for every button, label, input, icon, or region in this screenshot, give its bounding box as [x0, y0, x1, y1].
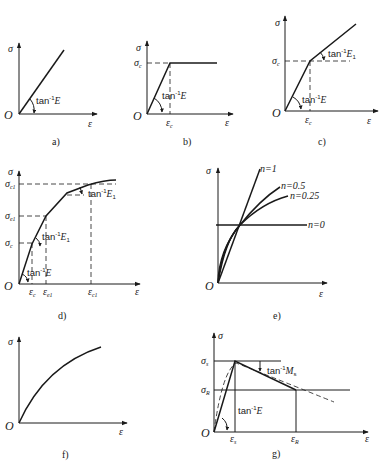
- angle-arc-icon: [320, 52, 324, 60]
- origin-label: O: [272, 106, 281, 120]
- stress-strain-figure: σ ε O tan-1E a) σ σc εc ε O tan-1E b) σ …: [0, 0, 383, 465]
- origin-label: O: [133, 109, 142, 123]
- label-n1: n=1: [260, 163, 277, 174]
- panel-c: σ σc εc ε O tan-1E tan-1E1 c): [272, 16, 378, 148]
- panel-b: σ σc εc ε O tan-1E b): [133, 41, 233, 148]
- annotation-tan-E: tan-1E: [27, 267, 52, 278]
- elastic-plastic-line: [147, 63, 217, 114]
- tick-sigma-e1: σe1: [5, 210, 16, 222]
- curve-n05: [218, 187, 280, 283]
- x-axis-label: ε: [135, 286, 139, 297]
- origin-label: O: [5, 419, 14, 433]
- annotation-tan-E: tan-1E: [36, 95, 61, 106]
- x-axis-label: ε: [365, 433, 369, 444]
- tick-eps-c: εc: [305, 114, 312, 126]
- nonlinear-curve: [19, 347, 101, 423]
- panel-e: σ ε O n=1 n=0.5 n=0.25 n=0 e): [205, 163, 327, 322]
- x-axis-label: ε: [319, 288, 323, 299]
- tick-eps-s: εs: [230, 433, 237, 445]
- annotation-tan-E1: tan-1E1: [42, 231, 70, 243]
- x-axis-label: ε: [367, 115, 371, 126]
- x-axis-label: ε: [225, 117, 229, 128]
- softening-curve: [214, 361, 296, 432]
- panel-g: σ σs σR εs εR ε O tan-1E tan-1Ms g): [201, 330, 369, 460]
- y-axis-label: σ: [206, 165, 212, 176]
- caption-a: a): [52, 136, 60, 148]
- caption-e: e): [273, 310, 281, 322]
- angle-arc-icon: [36, 238, 40, 246]
- annotation-tan-E: tan-1E: [302, 94, 327, 105]
- y-axis-label: σ: [275, 17, 281, 28]
- y-axis-label: σ: [8, 336, 14, 347]
- y-axis-label: σ: [136, 42, 142, 53]
- tick-sigma-c: σc: [5, 237, 13, 249]
- tick-eps-c: εc: [29, 286, 36, 298]
- angle-arc-icon: [222, 418, 227, 430]
- angle-arc-icon: [154, 98, 162, 112]
- caption-g: g): [272, 448, 280, 460]
- angle-arc-icon: [30, 99, 34, 113]
- x-axis-label: ε: [119, 426, 123, 437]
- annotation-tan-Ms: tan-1Ms: [267, 365, 296, 377]
- annotation-tan-E: tan-1E: [238, 405, 263, 416]
- panel-f: σ ε O f): [5, 336, 127, 461]
- caption-c: c): [318, 136, 326, 148]
- tick-sigma-s: σs: [201, 355, 209, 367]
- tick-sigma-c: σc: [272, 55, 280, 67]
- tick-eps-R: εR: [291, 433, 299, 445]
- tick-eps-c1: εc1: [88, 286, 98, 298]
- panel-a: σ ε O tan-1E a): [4, 43, 97, 148]
- tick-sigma-c1: σc1: [5, 178, 16, 190]
- annotation-tan-E1-upper: tan-1E1: [88, 188, 116, 200]
- tick-sigma-c: σc: [134, 57, 142, 69]
- origin-label: O: [201, 426, 210, 440]
- caption-d: d): [58, 310, 66, 322]
- annotation-tan-E1: tan-1E1: [328, 48, 356, 60]
- origin-label: O: [4, 279, 13, 293]
- label-n0: n=0: [308, 219, 325, 230]
- caption-b: b): [183, 136, 191, 148]
- origin-label: O: [205, 279, 214, 293]
- tick-eps-e1: εe1: [43, 286, 53, 298]
- tick-sigma-R: σR: [201, 384, 210, 396]
- caption-f: f): [62, 449, 69, 461]
- tick-eps-c: εc: [166, 117, 173, 129]
- annotation-tan-E: tan-1E: [162, 90, 187, 101]
- y-axis-label: σ: [8, 166, 14, 177]
- y-axis-label: σ: [8, 43, 14, 54]
- angle-arc-icon: [293, 97, 301, 109]
- panel-d: σ σc1 σe1 σc εc εe1 εc1 ε O tan-1E tan-1…: [4, 166, 140, 322]
- y-axis-label: σ: [218, 330, 224, 341]
- x-axis-label: ε: [88, 118, 92, 129]
- label-n025: n=0.25: [290, 190, 319, 201]
- origin-label: O: [4, 108, 13, 122]
